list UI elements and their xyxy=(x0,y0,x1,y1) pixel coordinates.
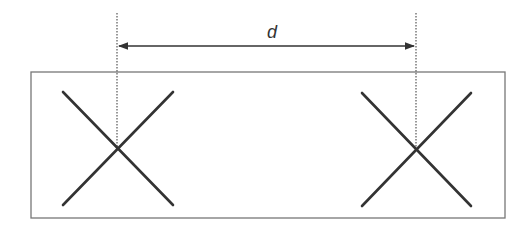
distance-label: d xyxy=(262,22,282,43)
frame-rectangle xyxy=(31,72,505,218)
left-cross xyxy=(63,92,173,205)
